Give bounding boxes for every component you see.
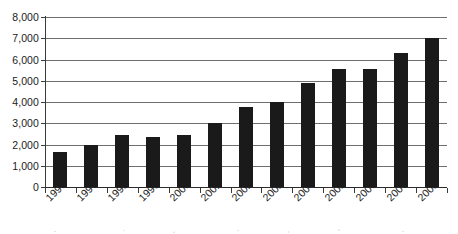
y-axis-tick	[41, 38, 45, 39]
scan-artifact	[0, 228, 458, 234]
bar	[363, 69, 377, 187]
gridline	[45, 81, 447, 82]
y-axis-line	[45, 16, 46, 188]
bar	[394, 53, 408, 187]
gridline	[45, 60, 447, 61]
gridline	[45, 38, 447, 39]
bar	[270, 102, 284, 187]
y-axis-tick	[41, 145, 45, 146]
y-axis-tick	[41, 166, 45, 167]
y-axis-tick	[41, 123, 45, 124]
bar	[425, 38, 439, 187]
bar	[332, 69, 346, 187]
y-axis-tick-label: 4,000	[1, 97, 39, 108]
y-axis-tick	[41, 60, 45, 61]
plot-area	[45, 17, 447, 187]
y-axis-tick-label: 1,000	[1, 161, 39, 172]
gridline	[45, 17, 447, 18]
y-axis-tick-label: 0	[1, 182, 39, 193]
y-axis-tick	[41, 81, 45, 82]
bar	[301, 83, 315, 187]
y-axis-tick	[41, 17, 45, 18]
bar	[239, 107, 253, 187]
y-axis-tick-label: 2,000	[1, 139, 39, 150]
x-axis-tick	[447, 188, 448, 193]
y-axis-labels: 01,0002,0003,0004,0005,0006,0007,0008,00…	[0, 0, 39, 234]
bar-chart: 01,0002,0003,0004,0005,0006,0007,0008,00…	[0, 0, 458, 234]
y-axis-tick-label: 8,000	[1, 12, 39, 23]
y-axis-tick-label: 5,000	[1, 76, 39, 87]
y-axis-tick-label: 7,000	[1, 33, 39, 44]
gridline	[45, 102, 447, 103]
y-axis-tick	[41, 102, 45, 103]
y-axis-tick-label: 3,000	[1, 118, 39, 129]
y-axis-tick-label: 6,000	[1, 54, 39, 65]
